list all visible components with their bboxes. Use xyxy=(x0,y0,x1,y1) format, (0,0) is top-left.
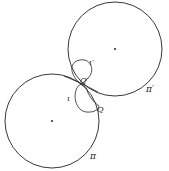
label-Q-prime: Q′ xyxy=(80,76,89,85)
loop-iota xyxy=(75,84,99,112)
center-dot-pi-prime xyxy=(114,48,116,50)
label-pi: π xyxy=(89,151,97,161)
label-iota: ι xyxy=(67,94,70,103)
center-dot-pi xyxy=(51,120,53,122)
label-pi-prime: π′ xyxy=(145,84,154,94)
label-iota-prime: ι′ xyxy=(89,58,94,67)
tangent-circles-diagram: ι′ Q′ ι Q π′ π xyxy=(0,0,169,171)
label-Q: Q xyxy=(97,105,104,114)
